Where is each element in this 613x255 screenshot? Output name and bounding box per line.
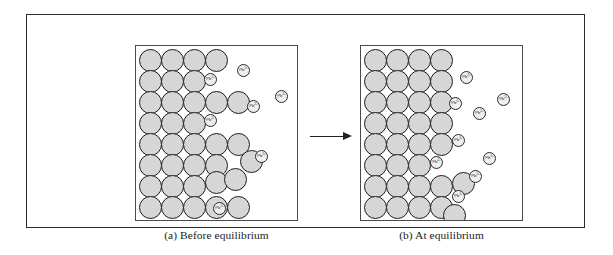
ion-label: Pb2+ [471,174,479,180]
solid-particle [364,49,387,72]
dissolved-ion: Pb2+ [497,93,510,106]
solid-particle [408,196,431,219]
solid-particle [161,91,184,114]
dissolved-ion: Pb2+ [469,170,482,183]
solid-particle [227,91,250,114]
solid-particle [139,49,162,72]
solid-particle [139,112,162,135]
container-box-before: Pb2+Pb2+Pb2+Pb2+Pb2+Pb2+Pb2+ [135,45,298,221]
solid-particle [224,168,247,191]
dissolved-ion: Pb2+ [275,90,288,103]
dissolved-ion: Pb2+ [452,134,465,147]
solid-particle [183,154,206,177]
solid-particle [183,49,206,72]
solid-particle [364,70,387,93]
solid-particle [408,133,431,156]
solid-particle [430,112,453,135]
solid-particle [183,175,206,198]
dissolved-ion: Pb2+ [430,156,443,169]
solid-particle [386,112,409,135]
ion-label: Pb2+ [206,118,214,124]
solid-particle [161,196,184,219]
solid-particle [408,112,431,135]
solid-particle [183,196,206,219]
solid-particle [139,70,162,93]
ion-label: Pb2+ [277,94,285,100]
solid-particle [364,154,387,177]
solid-particle [161,175,184,198]
solid-particle [364,133,387,156]
ion-label: Pb2+ [499,97,507,103]
ion-label: Pb2+ [249,104,257,110]
solid-particle [364,175,387,198]
dissolved-ion: Pb2+ [473,107,486,120]
ion-label: Pb2+ [215,206,223,212]
ion-label: Pb2+ [454,194,462,200]
solid-particle [139,175,162,198]
arrow-shaft [310,136,346,138]
reaction-arrow-icon [310,132,354,141]
panel-at-equilibrium: Pb2+Pb2+Pb2+Pb2+Pb2+Pb2+Pb2+Pb2+Pb2+ (b)… [360,45,523,221]
dissolved-ion: Pb2+ [247,100,260,113]
solid-particle [430,70,453,93]
dissolved-ion: Pb2+ [483,152,496,165]
solid-particle [408,154,431,177]
dissolved-ion: Pb2+ [449,97,462,110]
figure-outer-frame: Pb2+Pb2+Pb2+Pb2+Pb2+Pb2+Pb2+ (a) Before … [26,14,585,228]
dissolved-ion: Pb2+ [213,202,226,215]
equilibrium-figure: Pb2+Pb2+Pb2+Pb2+Pb2+Pb2+Pb2+ (a) Before … [0,0,613,255]
panel-before-equilibrium: Pb2+Pb2+Pb2+Pb2+Pb2+Pb2+Pb2+ (a) Before … [135,45,298,221]
solid-particle [408,70,431,93]
solid-particle [430,133,453,156]
caption-at-equilibrium: (b) At equilibrium [322,229,561,241]
solid-particle [443,204,466,221]
solid-particle [364,112,387,135]
solid-particle [227,196,250,219]
solid-particle [408,91,431,114]
dissolved-ion: Pb2+ [204,73,217,86]
dissolved-ion: Pb2+ [452,190,465,203]
solid-particle [139,196,162,219]
solid-particle [430,49,453,72]
solid-particle [386,196,409,219]
solid-particle [386,154,409,177]
solid-particle [161,133,184,156]
solid-particle [408,49,431,72]
ion-label: Pb2+ [206,77,214,83]
arrow-head [343,132,352,140]
solid-particle [364,91,387,114]
solid-particle [139,133,162,156]
solid-particle [139,154,162,177]
ion-label: Pb2+ [451,101,459,107]
solid-particle [161,154,184,177]
ion-label: Pb2+ [475,111,483,117]
solid-particle [161,49,184,72]
solid-particle [205,91,228,114]
ion-label: Pb2+ [462,75,470,81]
solid-particle [183,91,206,114]
solid-particle [430,175,453,198]
solid-particle [139,91,162,114]
container-box-at: Pb2+Pb2+Pb2+Pb2+Pb2+Pb2+Pb2+Pb2+Pb2+ [360,45,523,221]
solid-particle [161,112,184,135]
solid-particle [386,91,409,114]
solid-particle [205,49,228,72]
dissolved-ion: Pb2+ [460,71,473,84]
ion-label: Pb2+ [239,68,247,74]
solid-particle [183,112,206,135]
ion-label: Pb2+ [485,156,493,162]
solid-particle [183,70,206,93]
ion-label: Pb2+ [432,160,440,166]
dissolved-ion: Pb2+ [237,64,250,77]
solid-particle [386,175,409,198]
solid-particle [386,133,409,156]
solid-particle [386,49,409,72]
solid-particle [161,70,184,93]
solid-particle [408,175,431,198]
solid-particle [205,133,228,156]
dissolved-ion: Pb2+ [204,114,217,127]
ion-label: Pb2+ [454,138,462,144]
caption-before-equilibrium: (a) Before equilibrium [97,229,336,241]
solid-particle [386,70,409,93]
solid-particle [183,133,206,156]
